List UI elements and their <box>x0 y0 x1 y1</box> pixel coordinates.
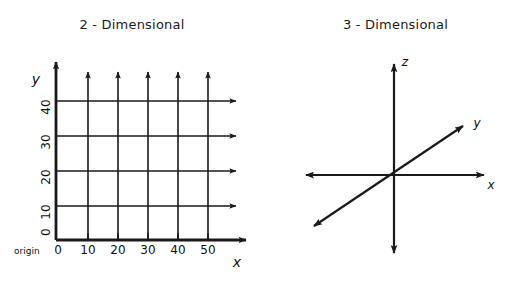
y-tick-label-40: 40 <box>39 99 53 114</box>
x-axis-label: x <box>486 178 495 192</box>
x-tick-label-50: 50 <box>200 243 215 257</box>
x-tick-label-0: 0 <box>54 243 62 257</box>
y-tick-label-0: 0 <box>39 228 53 236</box>
x-tick-label-30: 30 <box>140 243 155 257</box>
x-tick-label-20: 20 <box>110 243 125 257</box>
x-axis-label: x <box>232 254 242 270</box>
y-tick-label-10: 10 <box>39 204 53 219</box>
vertical-gridlines <box>88 72 208 240</box>
origin-label: origin <box>14 246 40 256</box>
y-tick-label-20: 20 <box>39 169 53 184</box>
x-tick-label-40: 40 <box>170 243 185 257</box>
horizontal-gridlines <box>56 101 236 206</box>
z-axis-label: z <box>401 55 409 69</box>
y-axis-label: y <box>31 71 41 87</box>
three-dimensional-diagram: z y x <box>264 0 527 281</box>
panel-two-dimensional: 2 - Dimensional <box>0 0 264 281</box>
y-axis-label: y <box>472 116 481 130</box>
two-dimensional-diagram: 0 10 20 30 40 50 0 10 20 30 40 y x origi… <box>0 0 264 281</box>
figure-canvas: 2 - Dimensional <box>0 0 527 281</box>
x-tick-label-10: 10 <box>80 243 95 257</box>
y-tick-label-30: 30 <box>39 134 53 149</box>
panel-three-dimensional: 3 - Dimensional z y x <box>264 0 527 281</box>
